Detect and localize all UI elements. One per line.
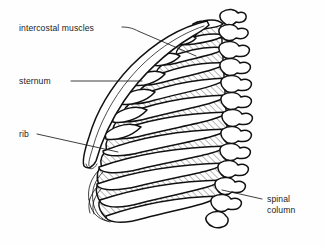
label-spinal-column-line1: spinal: [267, 194, 290, 204]
vertebra-13: [206, 212, 228, 228]
ribcage-diagram: intercostal muscles sternum rib spinal c…: [0, 0, 325, 246]
label-rib: rib: [19, 129, 29, 139]
label-intercostal-muscles: intercostal muscles: [19, 23, 94, 33]
label-spinal-column-line2: column: [267, 205, 295, 215]
label-sternum: sternum: [19, 76, 51, 86]
